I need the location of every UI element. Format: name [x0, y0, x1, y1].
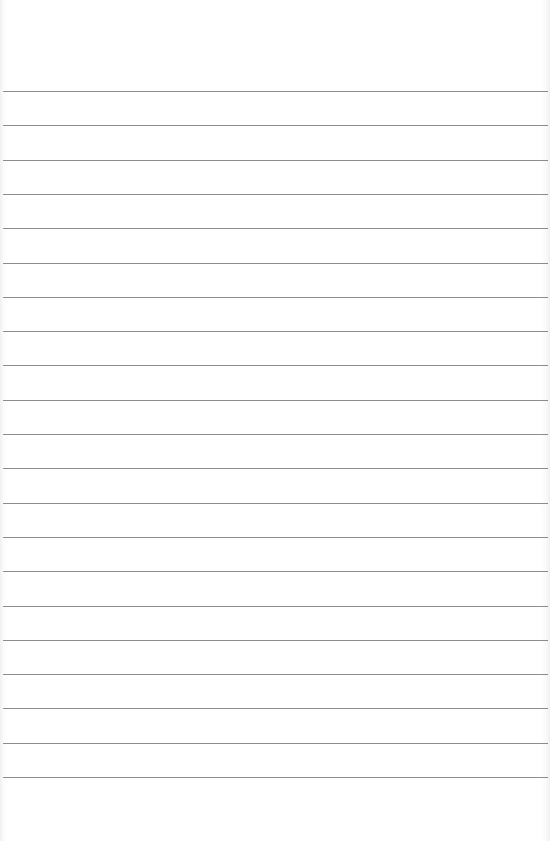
ruled-line [3, 571, 548, 572]
ruled-line [3, 503, 548, 504]
ruled-line [3, 160, 548, 161]
ruled-line [3, 263, 548, 264]
ruled-line [3, 468, 548, 469]
ruled-line [3, 125, 548, 126]
ruled-line [3, 194, 548, 195]
ruled-line [3, 434, 548, 435]
ruled-line [3, 297, 548, 298]
ruled-line [3, 743, 548, 744]
ruled-line [3, 400, 548, 401]
ruled-line [3, 606, 548, 607]
ruled-line [3, 331, 548, 332]
ruled-line [3, 708, 548, 709]
ruled-line [3, 674, 548, 675]
ruled-line [3, 91, 548, 92]
ruled-line [3, 365, 548, 366]
ruled-line [3, 640, 548, 641]
ruled-line [3, 777, 548, 778]
ruled-line [3, 228, 548, 229]
ruled-line [3, 537, 548, 538]
lined-paper-sheet [0, 0, 550, 841]
